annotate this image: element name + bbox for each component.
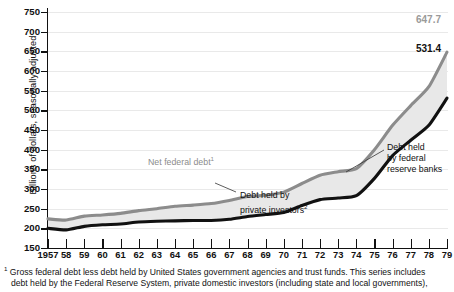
plot-area xyxy=(0,0,454,292)
footnote: 1 Gross federal debt less debt held by U… xyxy=(4,263,452,290)
annotation-net-federal-debt: Net federal debt1 xyxy=(148,153,214,168)
annotation-net-federal-debt-superscript: 1 xyxy=(211,155,214,162)
annotation-federal-reserve-line2: by federal xyxy=(387,153,442,164)
endpoint-label-net-federal-debt: 647.7 xyxy=(416,15,441,25)
annotation-net-federal-debt-text: Net federal debt xyxy=(148,157,211,167)
annotation-private-investors: Debt held by private investors2 xyxy=(240,190,308,216)
annotation-private-investors-line2: private investors xyxy=(240,205,304,215)
private-investors-leader-line xyxy=(215,183,236,192)
footnote-line2: debt held by the Federal Reserve System,… xyxy=(4,278,452,289)
endpoint-label-private-investors: 531.4 xyxy=(416,44,441,54)
footnote-line1: 1 Gross federal debt less debt held by U… xyxy=(4,263,452,278)
footnote-line1-text: Gross federal debt less debt held by Uni… xyxy=(10,267,425,277)
chart-container: Billions of dollars, seasonally adjusted… xyxy=(0,0,454,292)
footnote-marker: 1 xyxy=(4,265,7,272)
annotation-private-investors-line1: Debt held by xyxy=(240,190,308,201)
annotation-federal-reserve-line1: Debt held xyxy=(387,142,442,153)
annotation-federal-reserve-banks: Debt held by federal reserve banks xyxy=(387,142,442,175)
annotation-private-investors-line2-wrap: private investors2 xyxy=(240,201,308,216)
annotation-federal-reserve-line3: reserve banks xyxy=(387,164,442,175)
annotation-private-investors-superscript: 2 xyxy=(304,203,307,210)
